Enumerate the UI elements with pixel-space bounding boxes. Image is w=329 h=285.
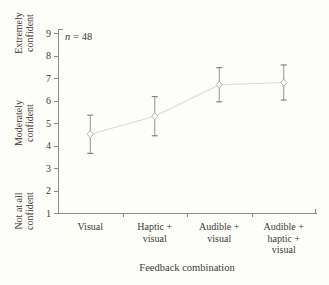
- confidence-line-chart: Extremely confident Moderately confident…: [0, 0, 329, 285]
- data-point-marker: [281, 79, 287, 86]
- data-series-layer: [0, 0, 329, 285]
- data-point-marker: [216, 81, 222, 88]
- series-line: [90, 83, 284, 135]
- data-point-marker: [87, 131, 93, 138]
- x-axis-title: Feedback combination: [58, 262, 316, 273]
- data-point-marker: [152, 113, 158, 120]
